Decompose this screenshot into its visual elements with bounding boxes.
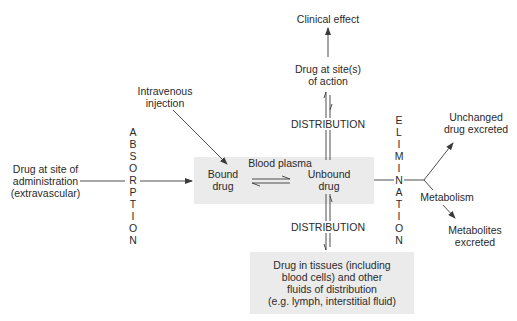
metabolites-excreted-label: Metabolites excreted	[440, 224, 510, 248]
elimination-label: E L I M I N A T I O N	[393, 114, 405, 246]
tissues-label: Drug in tissues (including blood cells) …	[252, 259, 412, 307]
intravenous-injection-label: Intravenous injection	[125, 85, 205, 109]
distribution-lower-label: DISTRIBUTION	[288, 221, 368, 233]
unchanged-drug-excreted-label: Unchanged drug excreted	[436, 111, 516, 135]
bound-drug-label: Bound drug	[198, 168, 248, 192]
clinical-effect-label: Clinical effect	[288, 13, 368, 25]
distribution-upper-label: DISTRIBUTION	[288, 118, 368, 130]
pharmacokinetics-diagram: Clinical effect Drug at site(s) of actio…	[0, 0, 517, 321]
metabolism-label: Metabolism	[412, 191, 482, 203]
site-of-administration-label: Drug at site of administration (extravas…	[8, 163, 83, 199]
absorption-label: A B S O R P T I O N	[127, 126, 139, 246]
site-of-action-label: Drug at site(s) of action	[283, 63, 373, 87]
unbound-drug-label: Unbound drug	[300, 168, 358, 192]
